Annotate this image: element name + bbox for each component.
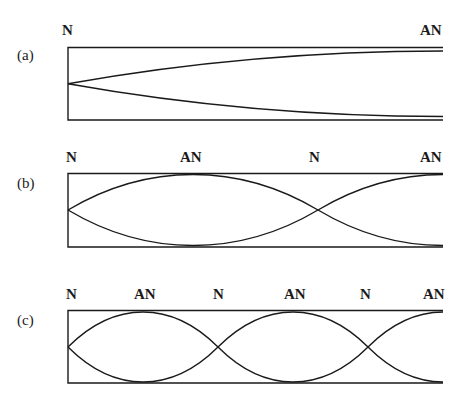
standing-wave-diagram	[0, 0, 462, 399]
panel-a-tube	[68, 48, 443, 121]
panel-c-upper-envelope	[68, 312, 443, 382]
panel-c-tube	[68, 311, 443, 384]
panel-a-upper-envelope	[68, 51, 443, 84]
panel-a-lower-envelope	[68, 84, 443, 117]
panel-c-lower-envelope	[68, 312, 443, 382]
panel-b-tube	[68, 174, 443, 248]
